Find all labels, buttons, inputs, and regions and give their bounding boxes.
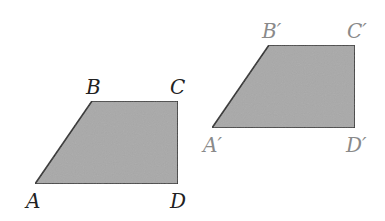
trapezoid-image (212, 45, 355, 128)
label-b: B (85, 75, 101, 99)
trapezoid-abcd (35, 101, 178, 184)
label-b-prime: B′ (261, 19, 282, 43)
label-d: D (169, 189, 186, 213)
label-c: C (170, 75, 185, 99)
label-d-prime: D′ (345, 133, 367, 157)
label-a-prime: A′ (201, 133, 222, 157)
diagram-canvas: B C A D B′ C′ A′ D′ (0, 0, 385, 221)
label-c-prime: C′ (347, 19, 367, 43)
label-a: A (24, 189, 40, 213)
